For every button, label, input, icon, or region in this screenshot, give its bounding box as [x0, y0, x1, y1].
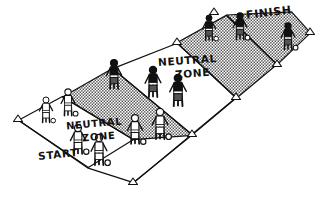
- player-nz-far-2: [145, 66, 161, 97]
- player-start-4: [91, 134, 110, 165]
- player-nz-far-3: [170, 74, 187, 106]
- field-diagram-svg: [0, 0, 328, 201]
- player-start-3: [70, 125, 89, 155]
- cone-finish-top: [210, 8, 219, 15]
- diagram-canvas: FINISH NEUTRAL ZONE NEUTRAL ZONE START: [0, 0, 328, 201]
